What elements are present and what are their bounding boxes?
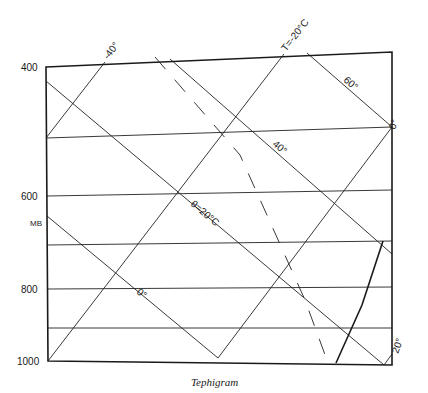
dashed-path xyxy=(155,57,328,363)
adiabat-40 xyxy=(170,59,392,254)
pressure-label-600: 600 xyxy=(21,191,38,202)
pressure-label-1000: 1000 xyxy=(17,356,40,367)
pressure-label-400: 400 xyxy=(21,62,38,73)
adiabat-label-60: 60° xyxy=(342,74,361,92)
adiabat-label-theta20: θ=20°C xyxy=(189,198,222,228)
diagram-caption: Tephigram xyxy=(191,376,238,388)
pressure-label-800: 800 xyxy=(21,284,38,295)
isotherm-label-minus40: -40° xyxy=(101,40,121,61)
isotherm-minus40 xyxy=(46,62,105,138)
isotherms xyxy=(46,54,392,365)
adiabat-60 xyxy=(307,53,392,127)
isotherm-label-minus20: T=-20°C xyxy=(279,17,311,53)
dry-adiabats xyxy=(46,53,392,365)
pressure-unit-label: MB xyxy=(30,219,42,228)
isobar-500 xyxy=(46,127,392,138)
isotherm-20 xyxy=(384,354,392,365)
isobars xyxy=(46,127,392,328)
isobar-800 xyxy=(47,287,392,289)
tephigram-diagram: 400 600 MB 800 1000 -40° T=-20°C 0° 20° … xyxy=(0,0,428,393)
isobar-700 xyxy=(47,241,392,245)
adiabat-0 xyxy=(47,216,218,358)
isotherm-label-0: 0° xyxy=(387,118,401,131)
adiabat-label-40: 40° xyxy=(271,138,290,156)
